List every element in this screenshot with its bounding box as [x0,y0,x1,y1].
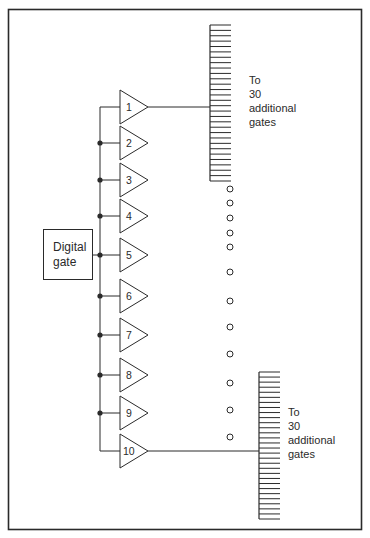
svg-text:additional: additional [288,434,335,446]
junction-dot [97,332,102,337]
continuation-circle [227,298,233,304]
svg-text:30: 30 [288,420,300,432]
junction-dot [97,410,102,415]
buffer-triangle-icon [120,238,148,272]
junction-dot [97,140,102,145]
svg-text:To: To [288,406,300,418]
buffer-gate-5: 5 [97,238,148,272]
gate-number-label: 4 [126,210,132,222]
svg-text:additional: additional [249,102,296,114]
continuation-circle [227,230,233,236]
gate-number-label: 1 [126,101,132,113]
buffer-gate-10: 10 [100,434,148,468]
gate-number-label: 7 [126,329,132,341]
top-fanout-comb [210,25,231,181]
buffer-gate-4: 4 [97,199,148,233]
bottom-fanout-label: To 30 additional gates [288,406,335,460]
digital-gate-label-line1: Digital [53,240,86,254]
digital-gate-box: Digital gate [44,230,93,280]
continuation-circle [227,186,233,192]
svg-text:30: 30 [249,88,261,100]
junction-dot [97,213,102,218]
buffer-triangle-icon [120,126,148,160]
continuation-circle [227,351,233,357]
svg-text:To: To [249,74,261,86]
junction-dot [97,372,102,377]
top-fanout-label: To 30 additional gates [249,74,296,128]
continuation-circle [227,269,233,275]
gate-number-label: 6 [126,290,132,302]
continuation-circle [227,380,233,386]
gate-number-label: 2 [126,137,132,149]
continuation-circle [227,200,233,206]
continuation-circle [227,215,233,221]
continuation-circle [227,244,233,250]
gate-number-label: 3 [126,174,132,186]
buffer-gate-9: 9 [97,396,148,430]
buffer-gate-6: 6 [97,279,148,313]
junction-dot [97,177,102,182]
buffer-triangle-icon [120,318,148,352]
digital-gate-label-line2: gate [53,255,77,269]
buffer-triangle-icon [120,90,148,124]
svg-text:gates: gates [249,116,276,128]
gate-number-label: 5 [126,249,132,261]
bottom-fanout-comb [259,372,280,519]
continuation-dots [227,186,233,440]
continuation-circle [227,407,233,413]
buffer-triangle-icon [120,199,148,233]
gate-number-label: 10 [123,445,135,457]
buffer-gate-1: 1 [100,90,148,124]
buffer-gates: 12345678910 [97,90,148,468]
buffer-gate-3: 3 [97,163,148,197]
svg-text:gates: gates [288,448,315,460]
buffer-triangle-icon [120,358,148,392]
buffer-triangle-icon [120,279,148,313]
buffer-triangle-icon [120,163,148,197]
buffer-gate-8: 8 [97,358,148,392]
buffer-gate-2: 2 [97,126,148,160]
gate-number-label: 9 [126,407,132,419]
buffer-gate-7: 7 [97,318,148,352]
buffer-triangle-icon [120,396,148,430]
junction-dot [97,252,102,257]
gate-number-label: 8 [126,369,132,381]
continuation-circle [227,434,233,440]
continuation-circle [227,324,233,330]
junction-dot [97,293,102,298]
fanout-diagram: Digital gate 12345678910 To 30 additiona… [0,0,370,538]
